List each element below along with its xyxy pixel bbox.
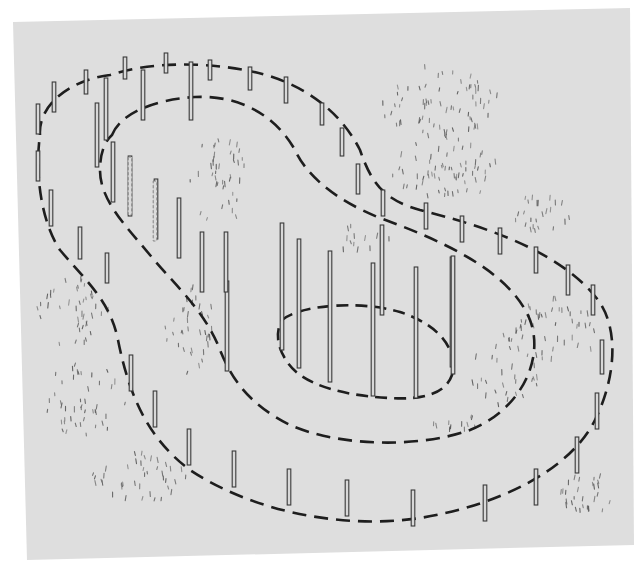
outer-stake xyxy=(460,216,464,242)
outer-stake xyxy=(411,490,415,526)
faint-stake xyxy=(153,181,157,241)
outer-stake xyxy=(84,70,88,94)
inner-stake xyxy=(371,263,375,396)
outer-stake xyxy=(123,57,127,79)
outer-stake xyxy=(595,393,599,429)
outer-stake xyxy=(287,469,291,505)
outer-stake xyxy=(340,128,344,156)
middle-stake xyxy=(104,78,108,140)
middle-stake xyxy=(225,281,229,371)
outer-stake xyxy=(36,104,40,134)
outer-stake xyxy=(345,480,349,516)
middle-stake xyxy=(189,62,193,120)
outer-stake xyxy=(381,190,385,216)
outer-stake xyxy=(49,190,53,226)
outer-stake xyxy=(600,340,604,374)
outer-stake xyxy=(153,391,157,427)
outer-stake xyxy=(483,485,487,521)
outer-stake xyxy=(164,53,168,73)
inner-stake xyxy=(280,223,284,350)
middle-stake xyxy=(200,232,204,292)
inner-stake xyxy=(414,267,418,398)
inner-stake xyxy=(328,251,332,382)
inner-stake xyxy=(451,256,455,374)
outer-stake xyxy=(566,265,570,295)
outer-stake xyxy=(424,203,428,229)
middle-stake xyxy=(141,70,145,120)
middle-stake xyxy=(224,232,228,292)
outer-stake xyxy=(52,82,56,112)
middle-stake xyxy=(380,225,384,315)
outer-stake xyxy=(534,469,538,505)
inner-stake xyxy=(297,239,301,368)
middle-stake xyxy=(111,142,115,202)
outer-stake xyxy=(575,437,579,473)
outer-stake xyxy=(187,429,191,465)
outer-stake xyxy=(498,228,502,254)
outer-stake xyxy=(78,227,82,259)
outer-stake xyxy=(232,451,236,487)
faint-stake xyxy=(128,157,132,215)
outer-stake xyxy=(591,285,595,315)
outer-stake xyxy=(36,151,40,181)
contour-diagram xyxy=(0,0,642,567)
outer-stake xyxy=(534,247,538,273)
outer-stake xyxy=(105,253,109,283)
middle-stake xyxy=(177,198,181,258)
outer-stake xyxy=(284,77,288,103)
outer-stake xyxy=(248,67,252,90)
outer-stake xyxy=(320,103,324,125)
outer-stake xyxy=(208,60,212,80)
outer-stake xyxy=(129,355,133,391)
middle-stake xyxy=(95,103,99,167)
outer-stake xyxy=(356,164,360,194)
